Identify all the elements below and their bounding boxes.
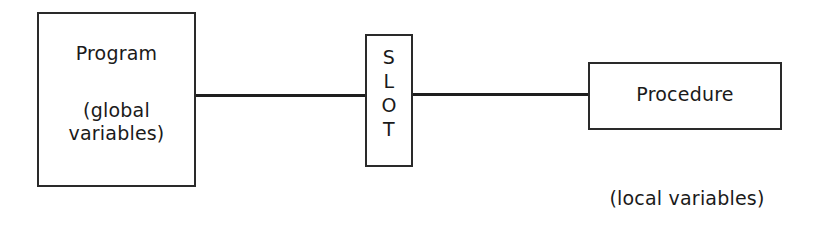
slot-label: S L O T — [365, 45, 413, 141]
connector-slot-procedure — [413, 93, 588, 96]
program-subtitle: (global variables) — [37, 99, 196, 145]
program-subtitle-line1: (global — [37, 99, 196, 122]
procedure-title: Procedure — [588, 83, 782, 106]
program-title: Program — [37, 42, 196, 65]
connector-program-slot — [196, 94, 365, 97]
program-subtitle-line2: variables) — [37, 122, 196, 145]
slot-letter-t: T — [383, 117, 395, 141]
slot-letter-o: O — [381, 93, 396, 117]
local-variables-annotation: (local variables) — [597, 187, 777, 210]
slot-letter-s: S — [383, 45, 395, 69]
slot-letter-l: L — [384, 69, 395, 93]
